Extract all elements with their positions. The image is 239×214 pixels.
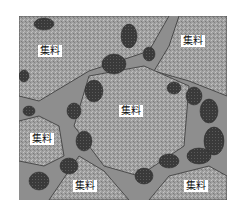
aggregate-label: 集料 [181, 35, 205, 47]
microstructure-figure: 集料 集料 集料 集料 集料 集料 [19, 16, 227, 200]
aggregate-label: 集料 [184, 180, 208, 192]
aggregate-label: 集料 [38, 45, 62, 57]
aggregate-label: 集料 [73, 180, 97, 192]
aggregate-label: 集料 [30, 133, 54, 145]
aggregate-label: 集料 [119, 105, 143, 117]
